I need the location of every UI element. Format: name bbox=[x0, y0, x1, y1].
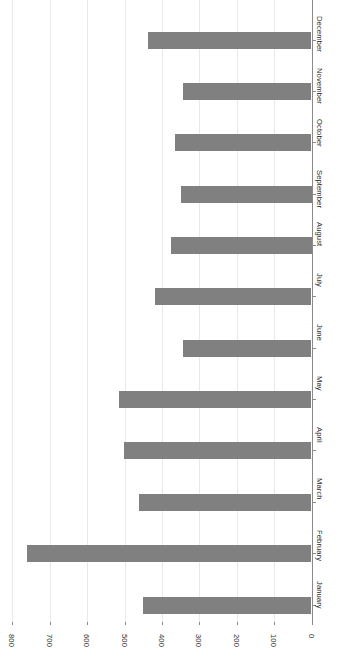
category-tick-mark bbox=[313, 450, 316, 451]
tick-label-800: 800 bbox=[7, 634, 16, 647]
category-tick-mark bbox=[313, 296, 316, 297]
gridline bbox=[12, 0, 13, 622]
category-label-april: April bbox=[315, 427, 324, 443]
category-label-february: February bbox=[315, 530, 324, 561]
category-label-march: March bbox=[315, 478, 324, 500]
value-tick-mark bbox=[312, 622, 313, 625]
bar[interactable] bbox=[181, 186, 312, 203]
value-tick-mark bbox=[12, 622, 13, 625]
bar[interactable] bbox=[171, 237, 311, 254]
bar[interactable] bbox=[175, 134, 312, 151]
bar[interactable] bbox=[183, 83, 312, 100]
bar[interactable] bbox=[139, 494, 312, 511]
category-label-december: December bbox=[315, 16, 324, 52]
gridline bbox=[125, 0, 126, 622]
category-label-may: May bbox=[315, 376, 324, 391]
gridline bbox=[87, 0, 88, 622]
category-label-january: January bbox=[315, 581, 324, 609]
bar[interactable] bbox=[155, 288, 312, 305]
gridline bbox=[162, 0, 163, 622]
category-label-november: November bbox=[315, 68, 324, 104]
value-tick-mark bbox=[199, 622, 200, 625]
category-tick-mark bbox=[313, 502, 316, 503]
category-label-october: October bbox=[315, 119, 324, 147]
category-tick-mark bbox=[313, 348, 316, 349]
tick-label-300: 300 bbox=[194, 634, 203, 647]
axis-line bbox=[312, 0, 313, 622]
tick-label-100: 100 bbox=[269, 634, 278, 647]
tick-label-0: 0 bbox=[307, 634, 316, 638]
tick-label-700: 700 bbox=[45, 634, 54, 647]
category-label-june: June bbox=[315, 324, 324, 341]
value-tick-mark bbox=[87, 622, 88, 625]
bar[interactable] bbox=[27, 545, 312, 562]
value-tick-mark bbox=[237, 622, 238, 625]
tick-label-400: 400 bbox=[157, 634, 166, 647]
value-tick-mark bbox=[162, 622, 163, 625]
plot-area: JanuaryFebruaryMarchAprilMayJuneJulyAugu… bbox=[0, 0, 340, 669]
bar[interactable] bbox=[143, 597, 312, 614]
value-tick-mark bbox=[125, 622, 126, 625]
value-tick-mark bbox=[274, 622, 275, 625]
bar[interactable] bbox=[183, 340, 312, 357]
category-label-september: September bbox=[315, 170, 324, 208]
value-tick-mark bbox=[50, 622, 51, 625]
tick-label-200: 200 bbox=[232, 634, 241, 647]
tick-label-600: 600 bbox=[82, 634, 91, 647]
bar[interactable] bbox=[124, 442, 311, 459]
bar[interactable] bbox=[148, 32, 312, 49]
bar[interactable] bbox=[119, 391, 312, 408]
bar-chart: JanuaryFebruaryMarchAprilMayJuneJulyAugu… bbox=[0, 0, 340, 669]
gridline bbox=[50, 0, 51, 622]
tick-label-500: 500 bbox=[120, 634, 129, 647]
category-tick-mark bbox=[313, 399, 316, 400]
category-label-august: August bbox=[315, 222, 324, 246]
category-label-july: July bbox=[315, 273, 324, 287]
